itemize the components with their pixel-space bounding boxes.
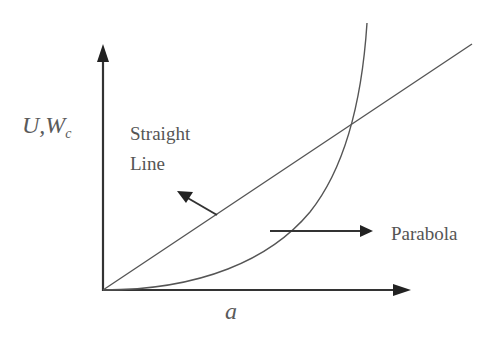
x-axis-label: a — [225, 298, 237, 325]
x-axis-arrowhead-icon — [393, 284, 411, 296]
pointer-arrowhead-icon — [360, 225, 373, 237]
straight-line-label-line1: Straight — [130, 119, 190, 149]
diagram-canvas — [0, 0, 495, 342]
parabola-pointer — [270, 225, 373, 237]
straight-line-annotation: Straight Line — [130, 119, 190, 179]
y-axis-label-main: U,W — [22, 112, 65, 138]
y-axis — [97, 44, 109, 291]
straight-line-label-line2: Line — [130, 149, 190, 179]
y-axis-label-subscript: c — [65, 126, 71, 141]
x-axis — [102, 284, 411, 296]
parabola-annotation: Parabola — [391, 223, 457, 245]
straight-line-pointer — [177, 191, 217, 215]
y-axis-label: U,Wc — [22, 112, 72, 142]
pointer-arrowhead-icon — [177, 191, 193, 203]
y-axis-arrowhead-icon — [97, 44, 109, 62]
